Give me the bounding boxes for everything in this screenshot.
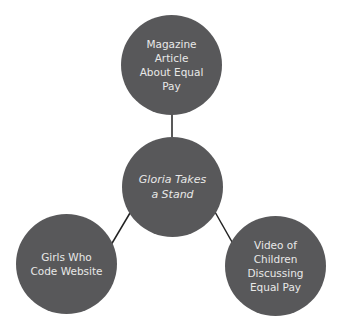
node-video-of-children: Video of Children Discussing Equal Pay bbox=[225, 216, 326, 316]
node-girls-who-code: Girls Who Code Website bbox=[16, 214, 117, 314]
center-label-line: a Stand bbox=[139, 187, 206, 202]
node-label-line: About Equal Pay bbox=[131, 65, 212, 93]
node-label-line: Magazine Article bbox=[131, 37, 212, 65]
node-center-gloria-takes-a-stand: Gloria Takes a Stand bbox=[122, 137, 223, 237]
center-label-line: Gloria Takes bbox=[139, 172, 206, 187]
node-label-line: Girls Who bbox=[30, 250, 102, 264]
node-label-line: Code Website bbox=[30, 264, 102, 278]
node-label-line: Video of bbox=[247, 238, 303, 252]
node-label-line: Discussing bbox=[247, 266, 303, 280]
node-label-line: Equal Pay bbox=[247, 280, 303, 294]
concept-web-diagram: Magazine Article About Equal Pay Gloria … bbox=[0, 0, 338, 333]
node-magazine-article: Magazine Article About Equal Pay bbox=[121, 15, 222, 115]
node-label-line: Children bbox=[247, 252, 303, 266]
